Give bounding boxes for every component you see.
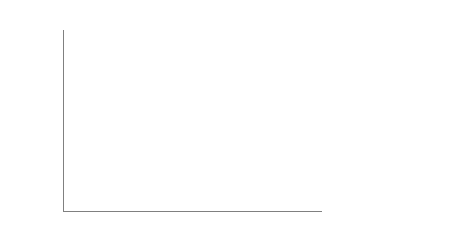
y-axis-line xyxy=(63,30,64,212)
x-axis-line xyxy=(63,211,322,212)
chart-container xyxy=(0,0,458,249)
plot-area xyxy=(64,30,322,212)
